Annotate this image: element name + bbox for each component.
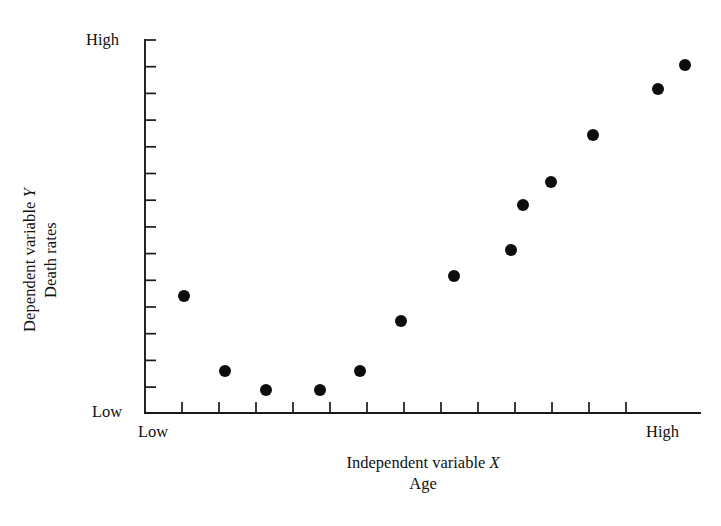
data-point	[545, 176, 557, 188]
data-point-group	[178, 59, 691, 396]
x-axis-tick-group	[182, 402, 626, 413]
data-point	[505, 244, 517, 256]
data-point	[517, 199, 529, 211]
axis-lines	[145, 40, 700, 413]
data-point	[314, 384, 326, 396]
data-point	[679, 59, 691, 71]
plot-canvas	[0, 0, 721, 526]
y-axis-tick-group	[145, 40, 156, 387]
data-point	[260, 384, 272, 396]
data-point	[652, 83, 664, 95]
data-point	[448, 270, 460, 282]
data-point	[395, 315, 407, 327]
scatter-plot-figure: Dependent variable Y Death rates High Lo…	[0, 0, 721, 526]
data-point	[587, 129, 599, 141]
data-point	[219, 365, 231, 377]
data-point	[354, 365, 366, 377]
data-point	[178, 290, 190, 302]
